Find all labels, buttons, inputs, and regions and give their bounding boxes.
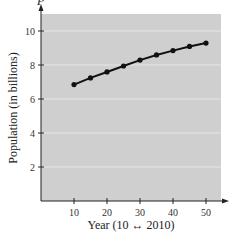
x-tick-label: 10 <box>69 207 79 218</box>
data-point-marker <box>203 40 208 45</box>
x-tick-label: 40 <box>168 207 178 218</box>
y-tick-label: 8 <box>30 60 35 71</box>
x-axis-arrow-icon <box>222 199 229 204</box>
data-point-marker <box>104 69 109 74</box>
y-axis-variable: P <box>36 0 45 8</box>
x-tick-label: 50 <box>201 207 211 218</box>
data-point-marker <box>187 44 192 49</box>
data-point-marker <box>137 57 142 62</box>
population-line-chart: 246810 1020304050 P Population (in billi… <box>0 0 231 233</box>
x-axis-title: Year (10 ↔ 2010) <box>87 218 174 232</box>
y-tick-label: 2 <box>30 162 35 173</box>
y-axis-title: Population (in billions) <box>6 52 20 163</box>
plot-area <box>41 14 221 201</box>
y-tick-label: 6 <box>30 94 35 105</box>
x-tick-label: 30 <box>135 207 145 218</box>
data-point-marker <box>121 63 126 68</box>
data-point-marker <box>71 82 76 87</box>
data-point-marker <box>88 75 93 80</box>
y-tick-label: 10 <box>25 26 35 37</box>
data-point-marker <box>154 52 159 57</box>
y-tick-label: 4 <box>30 128 35 139</box>
data-point-marker <box>170 48 175 53</box>
x-tick-label: 20 <box>102 207 112 218</box>
